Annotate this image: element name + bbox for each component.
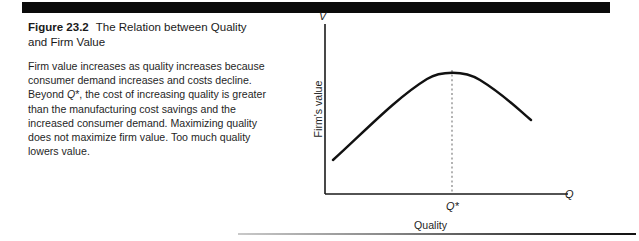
- chart-svg: [300, 8, 639, 233]
- y-axis-symbol: V: [319, 10, 326, 22]
- figure-panel: Figure 23.2The Relation between Quality …: [0, 0, 639, 241]
- figure-caption: Firm value increases as quality increase…: [28, 59, 266, 158]
- qstar-label: Q*: [446, 200, 459, 212]
- x-axis-symbol: Q: [565, 188, 574, 200]
- caption-block: Figure 23.2The Relation between Quality …: [28, 20, 266, 158]
- chart-plot-area: V Q Q* Quality Firm's value: [300, 8, 639, 233]
- figure-number: Figure 23.2: [28, 21, 89, 33]
- y-axis-title: Firm's value: [312, 69, 324, 149]
- figure-title: Figure 23.2The Relation between Quality …: [28, 20, 266, 49]
- firm-value-curve: [333, 73, 531, 160]
- x-axis-title: Quality: [414, 219, 447, 231]
- bottom-divider-rule: [238, 233, 636, 235]
